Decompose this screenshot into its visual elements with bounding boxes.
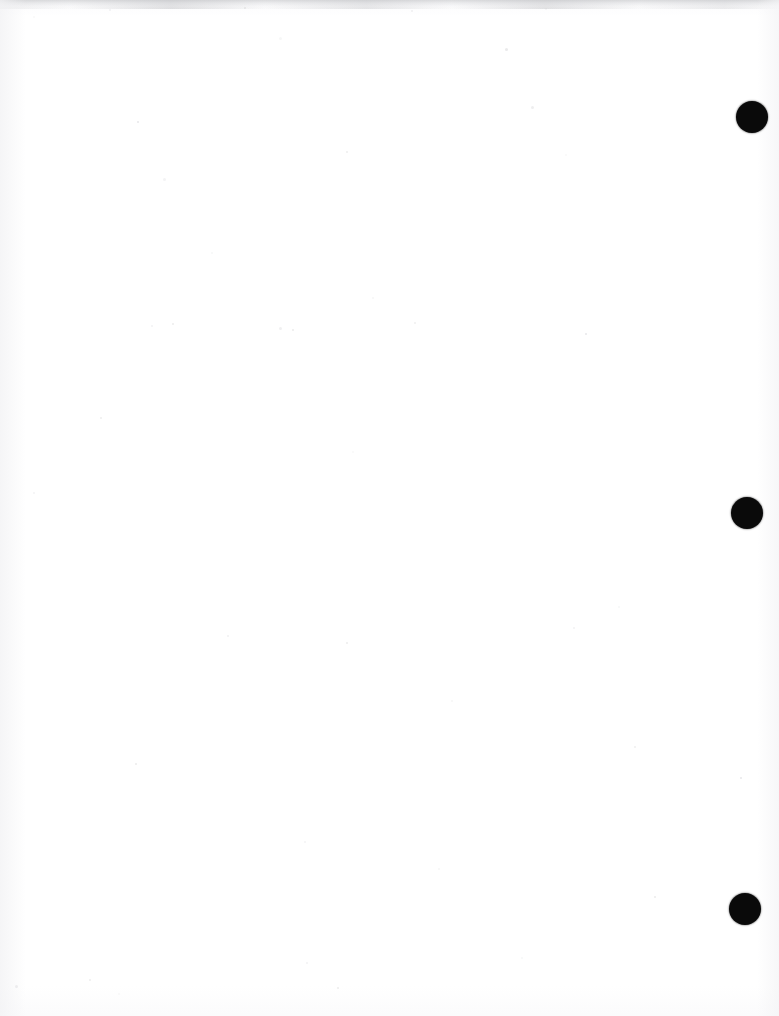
scanner-speck: [634, 746, 636, 748]
punch-mark-top: [736, 101, 768, 133]
paper-surface: [0, 0, 779, 1016]
scanner-speck: [306, 962, 308, 964]
scanner-speck: [346, 642, 348, 644]
scanner-speck: [573, 627, 575, 629]
scanner-speck: [33, 16, 35, 18]
scanner-speck: [414, 322, 416, 324]
scanner-speck: [151, 325, 153, 327]
scanner-speck: [172, 323, 174, 325]
scanner-speck: [352, 451, 354, 453]
scanner-speck: [100, 417, 102, 419]
page-edge-shading: [0, 0, 779, 1016]
scanner-speck: [451, 700, 453, 702]
scanner-speck: [438, 868, 440, 870]
top-edge-scan-band: [0, 0, 779, 9]
scanner-speck: [15, 985, 18, 988]
scanner-speck: [505, 48, 508, 51]
scanner-speck: [346, 151, 348, 153]
scanner-speck: [118, 993, 120, 995]
scanner-speck: [337, 987, 339, 989]
scanner-speck: [372, 297, 374, 299]
scanner-speck: [740, 777, 742, 779]
scanner-speck: [292, 329, 294, 331]
scanner-speck: [411, 10, 413, 12]
punch-mark-bottom: [729, 893, 761, 925]
scanner-speck: [618, 606, 620, 608]
scanner-speck: [89, 979, 91, 981]
scanner-speck: [545, 8, 547, 10]
scanner-speck: [163, 178, 166, 181]
scanner-speck: [244, 7, 246, 9]
scanned-page: [0, 0, 779, 1016]
scanner-speck: [654, 896, 656, 898]
scanner-speck: [279, 37, 282, 40]
scanner-speck: [565, 154, 567, 156]
scanner-speck: [279, 327, 282, 330]
scanner-speck: [137, 121, 139, 123]
scanner-speck: [585, 333, 587, 335]
punch-mark-middle: [731, 497, 763, 529]
scanner-speck: [531, 106, 534, 109]
scanner-speck: [109, 9, 111, 11]
scanner-speck: [211, 252, 213, 254]
scanner-speck: [304, 841, 306, 843]
scanner-speck: [33, 492, 35, 494]
scanner-speck: [227, 635, 229, 637]
scanner-speck: [135, 763, 137, 765]
scanner-speckle-layer: [0, 0, 779, 1016]
scanner-speck: [521, 957, 523, 959]
